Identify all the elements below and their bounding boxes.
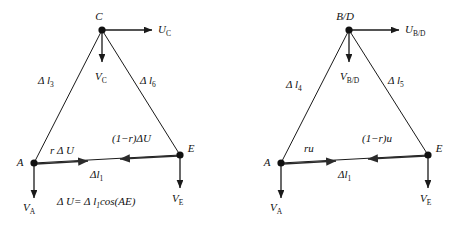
- label-apex-C: C: [95, 10, 103, 22]
- label-rdU: r Δ U: [50, 144, 75, 156]
- label-1-r-dU: (1−r)ΔU: [112, 132, 152, 145]
- edge-A-E: [34, 155, 180, 163]
- label-vertex-E-left: E: [187, 142, 195, 154]
- right-panel-group: B/D UB/D VB/D Δ l4 Δ l5 A E VA VE ru (1−…: [263, 10, 443, 216]
- label-dl1-left: Δl1: [89, 168, 104, 183]
- label-vertex-A-left: A: [16, 156, 24, 168]
- label-V-BD: VB/D: [340, 70, 360, 85]
- node-BD: [345, 26, 352, 33]
- label-V-A-right: VA: [270, 201, 283, 216]
- node-A-left: [30, 159, 37, 166]
- equation-deltaU: Δ U= Δ l1cos(AE): [56, 195, 136, 210]
- label-apex-BD: B/D: [336, 10, 354, 22]
- node-E-right: [424, 151, 431, 158]
- figure-canvas: C UC VC Δ l3 Δ l6 A E VA VE r Δ U (1−r)Δ…: [0, 0, 459, 230]
- node-C: [98, 26, 105, 33]
- label-U-C: UC: [158, 23, 171, 38]
- label-dl5: Δ l5: [387, 74, 404, 89]
- node-E-left: [176, 151, 183, 158]
- label-V-A-left: VA: [23, 201, 36, 216]
- label-vertex-A-right: A: [263, 156, 271, 168]
- diagram-svg: C UC VC Δ l3 Δ l6 A E VA VE r Δ U (1−r)Δ…: [0, 0, 459, 230]
- label-dl6: Δ l6: [139, 74, 156, 89]
- edge-BD-A: [281, 30, 349, 163]
- left-panel-group: C UC VC Δ l3 Δ l6 A E VA VE r Δ U (1−r)Δ…: [16, 10, 195, 216]
- label-V-C: VC: [95, 70, 107, 85]
- label-ru: ru: [304, 142, 314, 154]
- label-1-r-u: (1−r)u: [362, 132, 393, 145]
- label-dl4: Δ l4: [285, 78, 302, 93]
- label-dl1-right: Δl1: [337, 168, 352, 183]
- edge-A-E-right: [281, 155, 428, 163]
- label-V-E-right: VE: [420, 192, 432, 207]
- label-dl3: Δ l3: [37, 74, 54, 89]
- label-U-BD: UB/D: [405, 23, 426, 38]
- node-A-right: [277, 159, 284, 166]
- label-V-E-left: VE: [172, 192, 184, 207]
- label-vertex-E-right: E: [435, 142, 443, 154]
